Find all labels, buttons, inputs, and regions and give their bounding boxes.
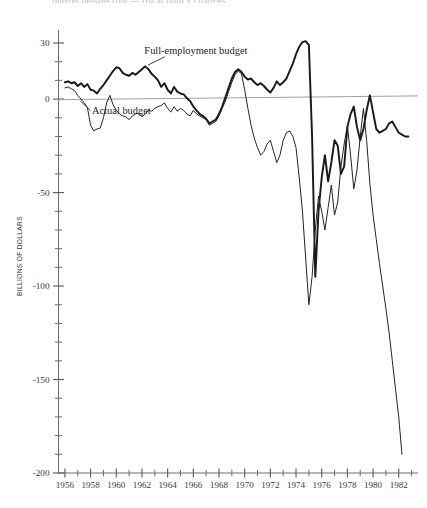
x-tick-label-1962: 1962 bbox=[133, 480, 152, 490]
series-line-full-employment-budget bbox=[65, 41, 408, 277]
x-tick-label-1968: 1968 bbox=[210, 480, 229, 490]
x-tick-label-1982: 1982 bbox=[390, 480, 409, 490]
full-employment-budget-label: Full-employment budget bbox=[144, 45, 247, 56]
budget-line-chart: 300-50-100-150-2001956195819601962196419… bbox=[0, 0, 427, 508]
y-tick-label-0: 0 bbox=[45, 94, 50, 104]
y-tick-label--200: -200 bbox=[33, 468, 50, 478]
series-group bbox=[65, 41, 408, 454]
y-tick-label--100: -100 bbox=[33, 281, 50, 291]
y-tick-label-30: 30 bbox=[40, 38, 50, 48]
x-tick-label-1966: 1966 bbox=[184, 480, 203, 490]
y-tick-label--150: -150 bbox=[33, 375, 50, 385]
actual-budget-leader-line bbox=[80, 101, 90, 111]
x-tick-label-1980: 1980 bbox=[364, 480, 383, 490]
y-tick-label--50: -50 bbox=[37, 188, 50, 198]
chart-root: budget perspective — fiscal policy chang… bbox=[0, 0, 427, 508]
y-axis-title: BILLIONS OF DOLLARS bbox=[16, 216, 23, 296]
actual-budget-label: Actual budget bbox=[92, 105, 151, 116]
zero-reference-line-path bbox=[59, 96, 419, 100]
x-tick-label-1974: 1974 bbox=[287, 480, 306, 490]
x-tick-label-1970: 1970 bbox=[236, 480, 255, 490]
full-employment-budget-leader-line bbox=[148, 57, 165, 66]
x-tick-label-1978: 1978 bbox=[338, 480, 357, 490]
series-line-actual-budget bbox=[65, 71, 402, 454]
x-tick-label-1960: 1960 bbox=[107, 480, 126, 490]
y-axis-title-group: BILLIONS OF DOLLARS bbox=[16, 216, 23, 296]
zero-reference-line bbox=[59, 96, 419, 100]
x-tick-label-1956: 1956 bbox=[56, 480, 75, 490]
x-tick-label-1958: 1958 bbox=[82, 480, 101, 490]
x-tick-label-1972: 1972 bbox=[261, 480, 280, 490]
x-tick-label-1964: 1964 bbox=[159, 480, 178, 490]
x-tick-label-1976: 1976 bbox=[313, 480, 332, 490]
